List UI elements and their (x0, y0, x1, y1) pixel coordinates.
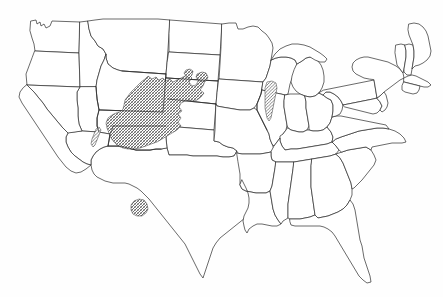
us-map-figure: United States (contiguous 48 states) dia… (0, 0, 443, 297)
state-south-dakota (166, 52, 220, 81)
state-iowa (216, 79, 263, 110)
state-north-dakota (169, 20, 222, 55)
state-indiana (284, 94, 309, 132)
us-map-svg (0, 0, 443, 297)
hatch-region-southwest-new-mexico-patch (131, 199, 148, 216)
state-washington (30, 20, 80, 53)
state-utah (77, 87, 99, 132)
state-oregon (26, 51, 80, 87)
